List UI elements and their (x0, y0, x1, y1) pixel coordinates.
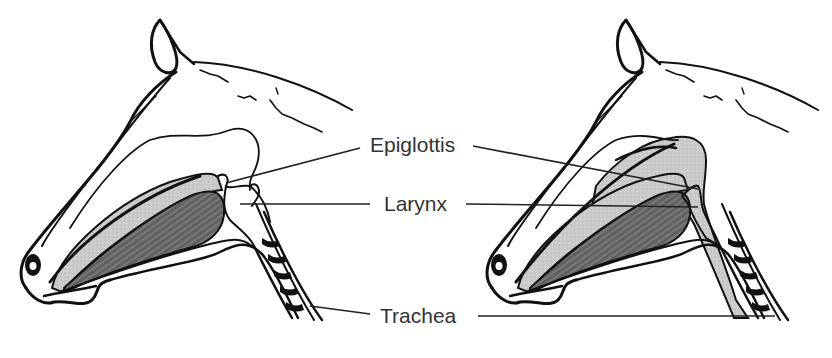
label-larynx: Larynx (384, 193, 447, 214)
trachea-leader-left (310, 306, 370, 314)
epiglottis-leader-left (226, 148, 360, 183)
label-epiglottis: Epiglottis (370, 134, 455, 155)
left-horse-head (21, 20, 352, 320)
label-trachea: Trachea (380, 305, 456, 326)
diagram-canvas: Epiglottis Larynx Trachea (0, 0, 832, 358)
right-horse-head (487, 20, 818, 320)
